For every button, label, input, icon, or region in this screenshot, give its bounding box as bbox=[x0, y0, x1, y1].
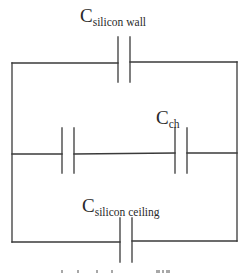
circuit-diagram: Csilicon wall Cch Csilicon ceiling bbox=[0, 0, 248, 273]
clipped-caption-fragment bbox=[0, 0, 248, 273]
